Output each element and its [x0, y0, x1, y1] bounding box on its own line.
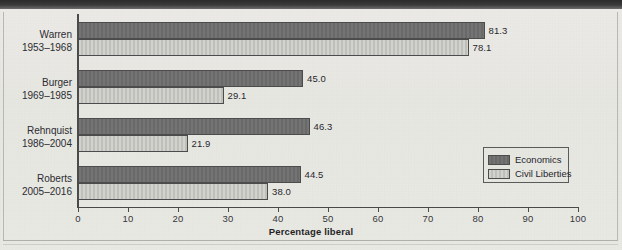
legend-item-civil-liberties[interactable]: Civil Liberties	[488, 167, 572, 180]
x-tick-label-70: 70	[423, 213, 434, 224]
x-tick-10	[128, 208, 129, 212]
x-tick-label-90: 90	[523, 213, 534, 224]
x-tick-label-30: 30	[223, 213, 234, 224]
x-tick-20	[178, 208, 179, 212]
category-label-rehnquist: Rehnquist 1986–2004	[0, 124, 72, 150]
x-tick-90	[528, 208, 529, 212]
category-name: Roberts	[0, 172, 72, 185]
legend-swatch-economics-icon	[488, 155, 510, 165]
category-years: 1969–1985	[0, 89, 72, 102]
x-tick-label-40: 40	[273, 213, 284, 224]
category-years: 1986–2004	[0, 137, 72, 150]
bar-chart: Warren 1953–1968 Burger 1969–1985 Rehnqu…	[0, 0, 622, 250]
x-tick-label-20: 20	[173, 213, 184, 224]
x-axis-title: Percentage liberal	[0, 226, 622, 237]
chart-legend: Economics Civil Liberties	[483, 147, 569, 183]
x-tick-label-60: 60	[373, 213, 384, 224]
bar-burger-economics[interactable]	[78, 70, 303, 87]
category-name: Rehnquist	[0, 124, 72, 137]
x-tick-70	[428, 208, 429, 212]
bar-roberts-civil-liberties[interactable]	[78, 183, 268, 200]
legend-item-economics[interactable]: Economics	[488, 153, 561, 166]
bar-roberts-economics[interactable]	[78, 166, 301, 183]
x-tick-50	[328, 208, 329, 212]
value-label-roberts-civil-liberties: 38.0	[272, 186, 291, 197]
value-label-burger-economics: 45.0	[307, 73, 326, 84]
bar-rehnquist-civil-liberties[interactable]	[78, 135, 188, 152]
legend-swatch-civil-liberties-icon	[488, 169, 510, 179]
x-tick-label-80: 80	[473, 213, 484, 224]
x-tick-label-100: 100	[570, 213, 586, 224]
x-tick-100	[578, 208, 579, 212]
value-label-rehnquist-economics: 46.3	[314, 121, 333, 132]
bar-rehnquist-economics[interactable]	[78, 118, 310, 135]
x-tick-label-10: 10	[123, 213, 134, 224]
x-tick-label-50: 50	[323, 213, 334, 224]
category-name: Warren	[0, 28, 72, 41]
value-label-roberts-economics: 44.5	[305, 169, 324, 180]
category-label-warren: Warren 1953–1968	[0, 28, 72, 54]
bar-burger-civil-liberties[interactable]	[78, 87, 224, 104]
x-tick-label-0: 0	[75, 213, 80, 224]
category-label-roberts: Roberts 2005–2016	[0, 172, 72, 198]
category-years: 2005–2016	[0, 185, 72, 198]
value-label-rehnquist-civil-liberties: 21.9	[192, 138, 211, 149]
x-tick-60	[378, 208, 379, 212]
category-name: Burger	[0, 76, 72, 89]
x-tick-40	[278, 208, 279, 212]
value-label-warren-civil-liberties: 78.1	[473, 42, 492, 53]
x-tick-30	[228, 208, 229, 212]
legend-label-civil-liberties: Civil Liberties	[515, 168, 572, 179]
bar-warren-economics[interactable]	[78, 22, 485, 39]
bar-warren-civil-liberties[interactable]	[78, 39, 469, 56]
value-label-burger-civil-liberties: 29.1	[228, 90, 247, 101]
x-tick-80	[478, 208, 479, 212]
value-label-warren-economics: 81.3	[489, 25, 508, 36]
x-tick-0	[78, 208, 79, 212]
legend-label-economics: Economics	[515, 154, 561, 165]
category-years: 1953–1968	[0, 41, 72, 54]
category-label-burger: Burger 1969–1985	[0, 76, 72, 102]
